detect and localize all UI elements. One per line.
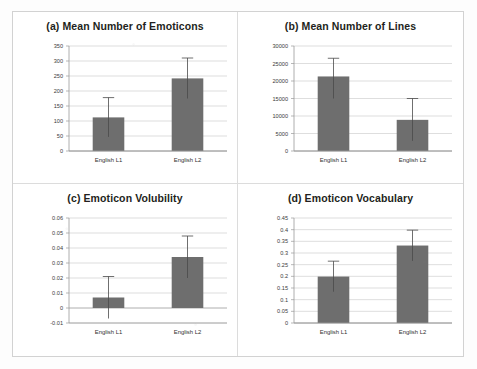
y-tick-label: 350 [54, 43, 63, 49]
panel-c-plot: -0.0100.010.020.030.040.050.06English L1… [13, 184, 237, 356]
y-tick-label: 150 [54, 103, 63, 109]
y-tick-label: 0.04 [52, 245, 63, 251]
x-category-label: English L1 [95, 157, 123, 163]
y-tick-label: 0.02 [52, 275, 63, 281]
panel-b-svg: 050001000015000200002500030000English L1… [238, 12, 463, 184]
x-category-label: English L2 [174, 157, 202, 163]
y-tick-label: 100 [54, 118, 63, 124]
panel-grid: (a) Mean Number of Emoticons 05010015020… [12, 11, 464, 357]
y-tick-label: 0.25 [277, 262, 288, 268]
y-tick-label: 250 [54, 73, 63, 79]
panel-c-svg: -0.0100.010.020.030.040.050.06English L1… [13, 184, 238, 356]
panel-a-svg: 050100150200250300350English L1English L… [13, 12, 238, 184]
y-tick-label: 0.1 [280, 297, 288, 303]
y-tick-label: 300 [54, 58, 63, 64]
y-tick-labels: 050100150200250300350 [54, 43, 63, 154]
bars: English L1English L2 [93, 58, 204, 163]
panel-b-plot: 050001000015000200002500030000English L1… [238, 12, 463, 183]
x-category-label: English L2 [399, 329, 427, 335]
x-category-label: English L2 [399, 157, 427, 163]
panel-a-plot: 050100150200250300350English L1English L… [13, 12, 237, 183]
y-tick-label: 50 [57, 133, 63, 139]
y-tick-label: 15000 [272, 96, 288, 102]
y-tick-label: 0 [60, 148, 63, 154]
panel-d-svg: 00.050.10.150.20.250.30.350.40.45English… [238, 184, 463, 356]
x-category-label: English L2 [174, 329, 202, 335]
y-tick-label: 0.45 [277, 215, 288, 221]
y-tick-labels: -0.0100.010.020.030.040.050.06 [50, 215, 63, 326]
y-tick-label: 0.03 [52, 260, 63, 266]
y-tick-label: 25000 [272, 61, 288, 67]
y-tick-label: 0.15 [277, 285, 288, 291]
y-tick-label: 200 [54, 88, 63, 94]
y-tick-label: 0.3 [280, 250, 288, 256]
y-tick-label: 0.01 [52, 290, 63, 296]
y-tick-label: 10000 [272, 113, 288, 119]
panel-a: (a) Mean Number of Emoticons 05010015020… [13, 12, 238, 184]
panel-d: (d) Emoticon Vocabulary 00.050.10.150.20… [238, 184, 463, 356]
x-category-label: English L1 [95, 329, 123, 335]
x-category-label: English L1 [320, 157, 348, 163]
y-tick-label: 0 [285, 148, 288, 154]
y-tick-labels: 050001000015000200002500030000 [272, 43, 288, 154]
y-tick-label: 0 [285, 320, 288, 326]
bars: English L1English L2 [93, 236, 204, 335]
bars: English L1English L2 [318, 230, 429, 335]
y-tick-label: 0.05 [52, 230, 63, 236]
bars: English L1English L2 [318, 58, 429, 163]
panel-c: (c) Emoticon Volubility -0.0100.010.020.… [13, 184, 238, 356]
panel-b: (b) Mean Number of Lines 050001000015000… [238, 12, 463, 184]
y-tick-label: 0.35 [277, 238, 288, 244]
y-tick-labels: 00.050.10.150.20.250.30.350.40.45 [277, 215, 288, 326]
y-tick-label: 0.05 [277, 308, 288, 314]
y-tick-label: -0.01 [50, 320, 63, 326]
y-tick-label: 20000 [272, 78, 288, 84]
y-tick-label: 0.4 [280, 227, 288, 233]
x-category-label: English L1 [320, 329, 348, 335]
y-tick-label: 30000 [272, 43, 288, 49]
figure-container: (a) Mean Number of Emoticons 05010015020… [0, 0, 477, 369]
y-tick-label: 0 [60, 305, 63, 311]
y-tick-label: 0.2 [280, 273, 288, 279]
panel-d-plot: 00.050.10.150.20.250.30.350.40.45English… [238, 184, 463, 356]
y-tick-label: 5000 [276, 131, 288, 137]
y-tick-label: 0.06 [52, 215, 63, 221]
